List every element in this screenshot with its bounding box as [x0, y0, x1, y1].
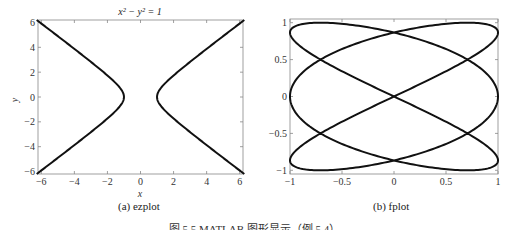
x-tick-label: 2: [171, 176, 176, 187]
subcaption-fplot: (b) fplot: [373, 200, 409, 212]
figure-caption: 图 5.5 MATLAB 图形显示（例 5.4）: [0, 220, 509, 230]
chart-title: x² − y² = 1: [117, 6, 161, 17]
y-tick-label: 1: [282, 17, 287, 28]
fplot-chart: −1−0.500.51−1−0.500.51: [269, 17, 501, 187]
y-tick-label: 0.5: [275, 54, 288, 65]
y-axis-label: y: [9, 97, 20, 103]
ezplot-chart: x² − y² = 1 −6−4−20246−6−4−20246 x y: [9, 6, 244, 199]
x-tick-label: −2: [102, 176, 113, 187]
subcaption-ezplot: (a) ezplot: [118, 200, 160, 212]
x-tick-label: −0.5: [333, 176, 351, 187]
y-tick-label: 6: [30, 17, 35, 28]
figure: x² − y² = 1 −6−4−20246−6−4−20246 x y −1−…: [0, 0, 509, 230]
x-tick-label: 0: [392, 176, 397, 187]
y-tick-label: 4: [30, 42, 35, 53]
x-tick-label: −1: [285, 176, 296, 187]
x-tick-label: 0: [138, 176, 143, 187]
y-tick-label: 2: [30, 67, 35, 78]
x-tick-label: 0.5: [440, 176, 453, 187]
y-tick-label: −1: [276, 165, 287, 176]
y-tick-label: −6: [24, 166, 35, 177]
y-tick-label: −0.5: [269, 128, 287, 139]
hyperbola-right-branch: [157, 20, 244, 174]
y-tick-label: −4: [24, 141, 35, 152]
y-tick-label: 0: [30, 92, 35, 103]
lissajous-curve: [290, 23, 498, 171]
y-tick-label: 0: [282, 91, 287, 102]
x-tick-label: 1: [496, 176, 501, 187]
x-tick-label: −4: [69, 176, 80, 187]
x-tick-label: −6: [36, 176, 47, 187]
hyperbola-left-branch: [37, 20, 124, 174]
x-axis-label: x: [137, 188, 143, 199]
x-tick-label: 6: [237, 176, 242, 187]
x-tick-label: 4: [204, 176, 209, 187]
y-tick-label: −2: [24, 116, 35, 127]
axis-ticks: −6−4−20246−6−4−20246: [24, 17, 243, 187]
plot-frame: [38, 20, 243, 174]
